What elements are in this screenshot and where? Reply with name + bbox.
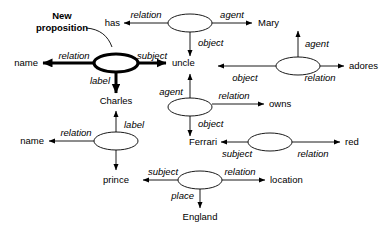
arc-label-agent: agent — [305, 38, 329, 49]
arc-label-label: label — [90, 75, 111, 86]
new-proposition-leader-line — [86, 28, 112, 47]
proposition-owns-uncle-ferrari[interactable]: agent relation object — [159, 74, 264, 136]
arc-label-place: place — [170, 190, 194, 201]
arc-label-relation: relation — [218, 90, 249, 101]
proposition-name-prince-charles[interactable]: label relation — [49, 111, 145, 170]
proposition-new-name-charles-uncle[interactable]: relation subject label — [43, 50, 167, 93]
proposition-node[interactable] — [168, 98, 212, 116]
proposition-node[interactable] — [178, 171, 222, 189]
new-proposition-annotation: Newproposition — [36, 10, 112, 47]
arc-label-relation: relation — [58, 50, 89, 61]
concept-name-bottom[interactable]: name — [20, 135, 44, 146]
diagram-canvas: relation agent object has Mary Newpropos… — [0, 0, 380, 226]
concept-adores[interactable]: adores — [349, 60, 378, 71]
proposition-node[interactable] — [248, 133, 292, 151]
proposition-location-prince-england[interactable]: subject relation place — [143, 166, 265, 208]
concept-has[interactable]: has — [105, 17, 121, 28]
new-proposition-label-line1: Newproposition — [36, 10, 88, 33]
arc-label-object: object — [198, 118, 224, 129]
arc-label-agent: agent — [220, 9, 244, 20]
arc-label-label: label — [124, 119, 145, 130]
concept-owns[interactable]: owns — [269, 98, 291, 109]
concept-red[interactable]: red — [345, 136, 359, 147]
concept-uncle[interactable]: uncle — [172, 57, 195, 68]
concept-prince[interactable]: prince — [103, 174, 129, 185]
arc-label-object: object — [232, 72, 258, 83]
arc-label-subject: subject — [222, 148, 252, 159]
concept-name-top[interactable]: name — [14, 57, 38, 68]
concept-ferrari[interactable]: Ferrari — [189, 136, 217, 147]
arc-label-relation: relation — [304, 72, 335, 83]
proposition-node[interactable] — [94, 132, 138, 150]
arc-label-subject: subject — [137, 50, 167, 61]
semantic-network-svg: relation agent object has Mary Newpropos… — [0, 0, 380, 226]
arc-label-relation: relation — [224, 166, 255, 177]
concept-location[interactable]: location — [270, 174, 303, 185]
proposition-adores-mary-uncle[interactable]: agent relation object — [218, 31, 344, 83]
concept-england[interactable]: England — [183, 211, 218, 222]
arc-label-relation: relation — [130, 9, 161, 20]
proposition-node[interactable] — [168, 14, 212, 32]
concept-mary[interactable]: Mary — [258, 17, 279, 28]
arc-label-agent: agent — [159, 86, 183, 97]
proposition-red-ferrari[interactable]: subject relation — [221, 133, 340, 159]
arc-label-object: object — [198, 37, 224, 48]
proposition-node-highlighted[interactable] — [94, 54, 138, 72]
concept-charles[interactable]: Charles — [100, 95, 133, 106]
arc-label-relation: relation — [60, 127, 91, 138]
arc-label-relation: relation — [297, 148, 328, 159]
arc-label-subject: subject — [148, 166, 178, 177]
